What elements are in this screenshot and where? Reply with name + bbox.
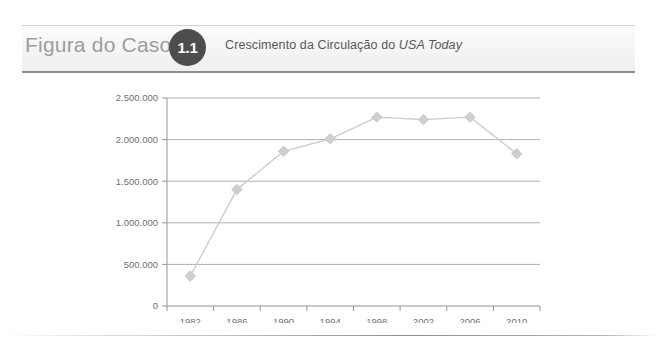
line-chart: 0500.0001.000.0001.500.0002.000.0002.500… <box>0 78 657 323</box>
series-marker <box>325 134 335 144</box>
y-axis-tick-marks <box>162 98 167 306</box>
figure-header-content: Figura do Caso 1.1 Crescimento da Circul… <box>22 26 635 71</box>
series-line-circulacao <box>190 117 516 276</box>
figure-label: Figura do Caso <box>25 33 171 57</box>
series-markers-group <box>185 112 522 281</box>
y-tick-label: 1.500.000 <box>116 176 158 187</box>
x-axis-tick-labels: 19821986199019941998200220062010 <box>180 316 528 323</box>
figure-number-badge: 1.1 <box>169 29 206 66</box>
chart-container: 0500.0001.000.0001.500.0002.000.0002.500… <box>0 78 657 323</box>
gridlines-group <box>167 98 540 264</box>
y-tick-label: 0 <box>153 300 158 311</box>
figure-header-band: Figura do Caso 1.1 Crescimento da Circul… <box>22 25 635 73</box>
y-tick-label: 500.000 <box>124 259 158 270</box>
y-tick-label: 2.000.000 <box>116 134 158 145</box>
series-marker <box>418 114 428 124</box>
figure-caption: Crescimento da Circulação do USA Today <box>225 38 462 52</box>
x-tick-label: 1982 <box>180 316 201 323</box>
series-marker <box>372 112 382 122</box>
x-tick-label: 1986 <box>226 316 247 323</box>
y-tick-label: 1.000.000 <box>116 217 158 228</box>
x-tick-label: 2002 <box>413 316 434 323</box>
x-tick-label: 1998 <box>366 316 387 323</box>
figure-caption-prefix: Crescimento da Circulação do <box>225 38 399 52</box>
figure-number-text: 1.1 <box>178 39 198 56</box>
figure-caption-emphasis: USA Today <box>399 38 462 52</box>
x-tick-label: 1994 <box>320 316 341 323</box>
y-axis-tick-labels: 0500.0001.000.0001.500.0002.000.0002.500… <box>116 92 158 311</box>
x-axis-tick-marks <box>167 306 540 311</box>
page-bottom-rule <box>0 335 657 336</box>
series-marker <box>185 271 195 281</box>
x-tick-label: 2010 <box>506 316 527 323</box>
x-tick-label: 2006 <box>459 316 480 323</box>
x-tick-label: 1990 <box>273 316 294 323</box>
y-tick-label: 2.500.000 <box>116 92 158 103</box>
